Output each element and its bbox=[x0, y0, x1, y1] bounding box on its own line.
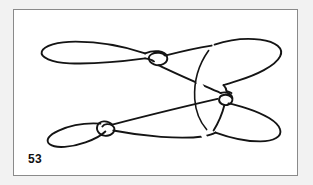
upper-rope-descending-diagonal bbox=[159, 65, 221, 93]
arc-over-break-lower bbox=[203, 134, 206, 140]
figure-frame: 53 bbox=[13, 9, 298, 176]
upper-rope-left-bight bbox=[42, 42, 145, 64]
arc-over-break-upper bbox=[199, 82, 203, 89]
lower-rope-rising-diagonal bbox=[112, 99, 217, 125]
knot-diagram bbox=[14, 10, 297, 175]
lower-rope-descending-strand bbox=[214, 105, 225, 131]
page-background: 53 bbox=[0, 0, 313, 185]
lower-rope-bottom-strand bbox=[113, 131, 215, 138]
upper-rope-return-strand bbox=[224, 85, 227, 91]
lower-rope-right-bight bbox=[216, 103, 281, 141]
upper-rope-upper-strand-right bbox=[166, 46, 212, 56]
figure-number: 53 bbox=[28, 153, 42, 165]
upper-rope-overhand-knot bbox=[145, 51, 167, 65]
upper-rope-right-bight bbox=[215, 39, 282, 85]
